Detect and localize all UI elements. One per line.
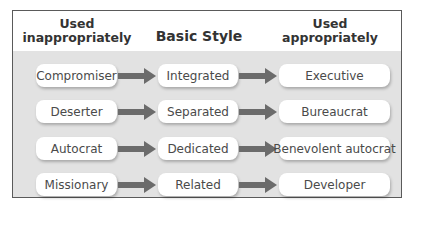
arrow-right-icon <box>118 141 156 157</box>
basic-style-box: Separated <box>158 100 238 123</box>
inappropriate-style-box: Missionary <box>36 173 117 196</box>
basic-style-box: Integrated <box>158 64 238 87</box>
appropriate-style-box: Benevolent autocrat <box>279 137 390 160</box>
header-row: Usedinappropriately Basic Style Usedappr… <box>13 11 401 52</box>
arrow-right-icon <box>239 104 277 120</box>
arrow-right-icon <box>239 177 277 193</box>
arrow-right-icon <box>118 177 156 193</box>
appropriate-style-box: Executive <box>279 64 390 87</box>
inappropriate-style-box: Deserter <box>36 100 117 123</box>
arrow-right-icon <box>239 141 277 157</box>
header-line: Basic Style <box>156 29 243 43</box>
arrow-right-icon <box>118 104 156 120</box>
header-basic-style: Basic Style <box>141 11 257 51</box>
basic-style-box: Dedicated <box>158 137 238 160</box>
inappropriate-style-box: Compromiser <box>36 64 117 87</box>
diagram-body: Compromiser Integrated Executive Deserte… <box>13 51 401 197</box>
appropriate-style-box: Developer <box>279 173 390 196</box>
header-line: inappropriately <box>23 31 132 45</box>
arrow-right-icon <box>239 68 277 84</box>
header-line: appropriately <box>282 31 378 45</box>
header-used-inappropriately: Usedinappropriately <box>13 11 141 51</box>
diagram-frame: Usedinappropriately Basic Style Usedappr… <box>12 10 402 198</box>
header-used-appropriately: Usedappropriately <box>257 11 403 51</box>
arrow-right-icon <box>118 68 156 84</box>
inappropriate-style-box: Autocrat <box>36 137 117 160</box>
basic-style-box: Related <box>158 173 238 196</box>
header-line: Used <box>282 17 378 31</box>
header-line: Used <box>23 17 132 31</box>
appropriate-style-box: Bureaucrat <box>279 100 390 123</box>
